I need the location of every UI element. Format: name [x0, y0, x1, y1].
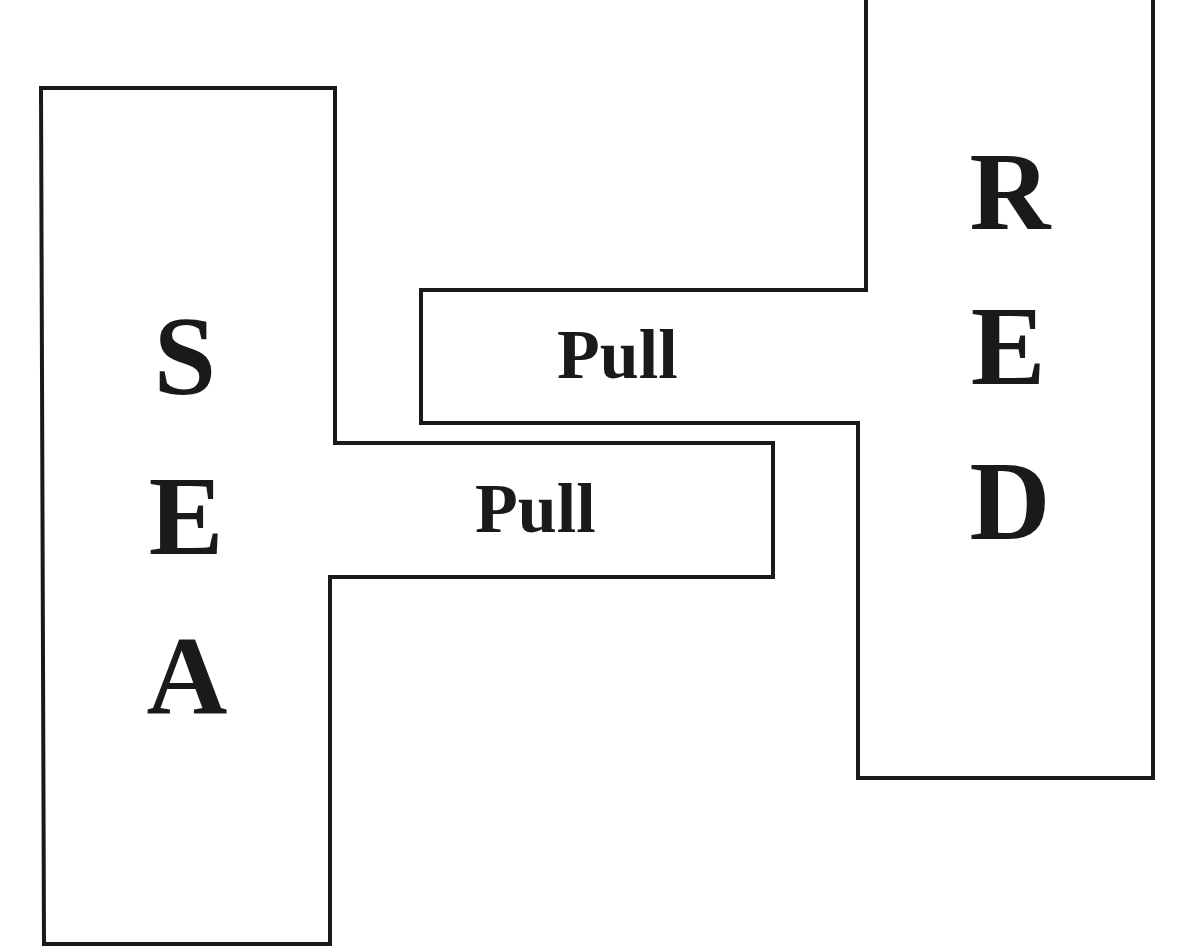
left-letter-1: S — [125, 300, 245, 412]
right-letter-2: E — [948, 290, 1068, 402]
left-letter-3: A — [127, 620, 247, 732]
right-pull-tab-label[interactable]: Pull — [557, 320, 678, 390]
right-letter-3: D — [950, 445, 1070, 557]
right-letter-1: R — [950, 135, 1070, 247]
left-pull-tab-label[interactable]: Pull — [475, 474, 596, 544]
left-letter-2: E — [126, 460, 246, 572]
